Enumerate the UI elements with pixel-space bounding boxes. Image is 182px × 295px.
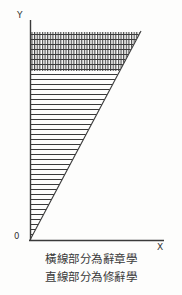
y-axis-label: Y xyxy=(17,11,23,20)
caption-line-horizontal-legend: 橫線部分為辭章學 xyxy=(0,250,182,268)
origin-label: 0 xyxy=(14,232,19,241)
figure-caption: 橫線部分為辭章學 直線部分為修辭學 xyxy=(0,250,182,286)
caption-line-vertical-legend: 直線部分為修辭學 xyxy=(0,268,182,286)
rhetoric-diagram-figure: Y X 0 橫線部分為辭章學 直線部分為修辭學 xyxy=(0,0,182,295)
vertical-hatch-region xyxy=(30,31,142,71)
